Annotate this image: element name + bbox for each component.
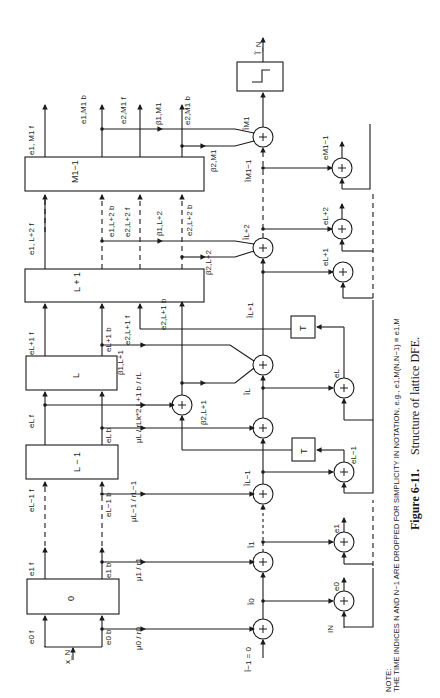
label-xN: x_N [64, 650, 72, 664]
label-eM1m1: eM1−1 [322, 135, 330, 160]
label-e0b: e0 b [105, 629, 113, 645]
label-I0: Î0 [248, 598, 256, 605]
label-e1b: e1 b [105, 562, 113, 578]
label-muLm1: μL−1 / rL−1 [130, 481, 138, 522]
label-ILp2: ÎL+2 [243, 224, 251, 240]
label-eLp1f: eL+1 f [28, 333, 36, 355]
T-label-upper: T [298, 326, 308, 332]
label-e2Lp1b: e2,L+1 b [160, 299, 168, 330]
label-IL: ÎL [244, 388, 252, 395]
label-k2Lp1: k*2,L+1 b / rL [135, 372, 143, 420]
label-IM1: ÎM1 [243, 117, 251, 130]
label-beta1M1: β1,M1 [155, 103, 163, 125]
block-label-0: 0 [66, 596, 76, 601]
label-muL: μL / rL [135, 420, 143, 443]
label-eLp1: eL+1 [322, 248, 330, 266]
block-label-L-1: L − 1 [72, 452, 82, 472]
label-e1M1f: e1, M1 f [28, 126, 36, 155]
label-eL: eL [333, 369, 341, 378]
label-e2Lp2b: e2,L+2 b [186, 205, 194, 236]
stage-block-L+1 [25, 269, 204, 302]
note-text: THE TIME INDICES N AND N−1 ARE DROPPED F… [392, 318, 401, 692]
label-e2M1b: e2,M1 b [184, 96, 192, 125]
figure-number: Figure 6-11. [408, 469, 422, 530]
label-e0f: e0 f [28, 631, 36, 644]
label-eLm1: eL−1 [350, 446, 358, 464]
label-e2Lp2f: e2,L+2 f [124, 208, 132, 237]
label-ILm1: ÎL−1 [244, 470, 252, 486]
label-beta1Lp1: β1,L+1 [117, 350, 125, 375]
label-Im1: Î−1 = 0 [245, 647, 253, 672]
label-e0: e0 [333, 582, 341, 591]
label-IN-input: IN [327, 625, 335, 633]
label-eLp1b: eL+1 b [105, 327, 113, 352]
label-ILp1: ÎL+1 [247, 302, 255, 318]
label-output-IN: Ĩ_N [255, 42, 263, 54]
label-eLf: eL f [28, 415, 36, 428]
figure-caption: Figure 6-11.Structure of lattice DFE. [408, 337, 423, 530]
figure-caption-text: Structure of lattice DFE. [408, 337, 422, 455]
block-label-M1-1: M1−1 [70, 160, 80, 183]
label-e2Lp1f: e2,L+1 f [124, 316, 132, 345]
label-beta1Lp2: β1,L+2 [156, 211, 164, 236]
label-eLp2: eL+2 [322, 207, 330, 225]
label-eLm1b: eL−1 b [105, 492, 113, 517]
label-mu0: μ0 / r0 [135, 627, 143, 650]
label-eLb: eL b [105, 428, 113, 443]
label-e1M1b: e1,M1 b [80, 95, 88, 124]
label-e2M1f: e2,M1 f [120, 97, 128, 124]
label-beta2Lp2: β2,L+2 [205, 250, 213, 275]
label-beta2Lp1: β2,L+1 [200, 400, 208, 425]
label-beta2M1: β2,M1 [210, 150, 218, 172]
label-mu1: μ1 / r1 [135, 558, 143, 581]
block-label-L: L [71, 373, 81, 378]
decision-device [237, 62, 283, 91]
label-e1: e1 [333, 524, 341, 533]
label-IM1m1: ÎM1−1 [245, 160, 253, 182]
label-e1Lp2f: e1, L+2 f [28, 224, 36, 255]
T-label-lower: T [299, 449, 309, 455]
label-e1f: e1 f [28, 563, 36, 576]
block-label-L+1: L + 1 [72, 272, 82, 292]
lattice-dfe-diagram [0, 0, 440, 698]
label-eLm1f: eL−1 f [28, 490, 36, 512]
label-I1: Î1 [248, 541, 256, 548]
label-e1Lp2b: e1,L+2 b [108, 206, 116, 237]
stage-block-M1-1 [25, 157, 204, 191]
